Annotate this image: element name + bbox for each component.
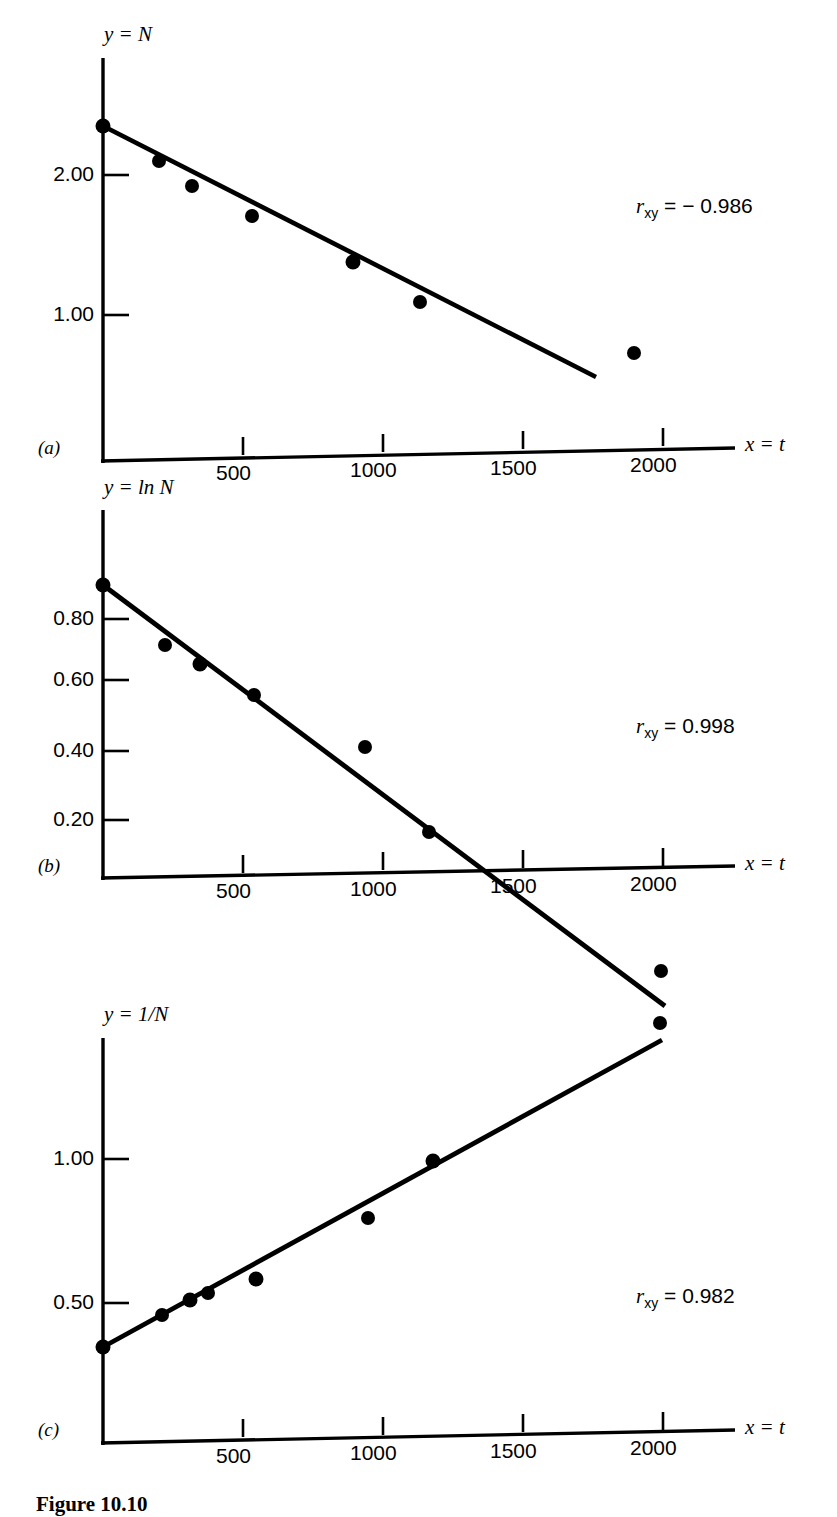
panel-a-xtick-label-1500: 1500 — [490, 456, 537, 480]
panel-a-data-point — [413, 295, 427, 309]
panel-b-ytick-label-060: 0.60 — [22, 667, 94, 691]
panel-c-data-point — [249, 1272, 264, 1287]
panel-b-correlation-value: = 0.998 — [664, 714, 735, 737]
panel-b-ytick-label-040: 0.40 — [22, 738, 94, 762]
panel-c-xtick-label-500: 500 — [216, 1444, 251, 1468]
panel-c-correlation: rxy = 0.982 — [636, 1284, 735, 1311]
panel-c-data-point — [201, 1286, 215, 1300]
panel-c-xtick-label-1000: 1000 — [350, 1441, 397, 1465]
panel-c-correlation-subscript: xy — [644, 1295, 658, 1311]
panel-b-y-axis-label: y = ln N — [104, 475, 174, 500]
panel-a-data-point — [185, 179, 199, 193]
panel-c-label: (c) — [38, 1419, 59, 1441]
panel-a-correlation: rxy = − 0.986 — [636, 194, 753, 221]
panel-a-y-axis-label: y = N — [104, 22, 152, 47]
panel-c-xtick-label-2000: 2000 — [630, 1436, 677, 1460]
panel-a-ytick-label-200: 2.00 — [22, 162, 94, 186]
panel-a-data-point — [346, 255, 361, 270]
panel-b-data-point — [422, 825, 436, 839]
panel-c-y-axis-label: y = 1/N — [104, 1002, 168, 1027]
figure-caption: Figure 10.10 — [36, 1492, 148, 1517]
panel-b-data-point — [654, 964, 668, 978]
panel-c-data-point — [653, 1016, 667, 1030]
panel-a-graphics — [96, 58, 736, 463]
panel-a-xtick-label-2000: 2000 — [630, 453, 677, 477]
panel-b-xtick-label-2000: 2000 — [630, 872, 677, 896]
panel-a-xtick-label-500: 500 — [216, 461, 251, 485]
panel-b-correlation-subscript: xy — [644, 725, 658, 741]
panel-a-data-point — [96, 119, 111, 134]
panel-b-xtick-label-1500: 1500 — [490, 874, 537, 898]
panel-b-label: (b) — [38, 855, 60, 877]
panel-a-xtick-label-1000: 1000 — [350, 458, 397, 482]
panel-b-data-point — [358, 740, 372, 754]
panel-a-ytick-label-100: 1.00 — [22, 302, 94, 326]
panel-a-data-point — [627, 346, 641, 360]
panel-b-ytick-label-020: 0.20 — [22, 807, 94, 831]
panel-b-data-point — [193, 657, 208, 672]
panel-c-ytick-label-100: 1.00 — [22, 1146, 94, 1170]
panel-a-label: (a) — [38, 437, 60, 459]
panel-b-graphics — [96, 510, 736, 1006]
panel-a-data-point — [245, 209, 259, 223]
panel-a-data-point — [152, 154, 166, 168]
panel-c-correlation-symbol: r — [636, 1284, 644, 1308]
panel-b-data-point — [158, 638, 172, 652]
panel-c-data-point — [361, 1211, 375, 1225]
panel-a-x-axis-label: x = t — [745, 432, 785, 457]
panel-b-xtick-label-1000: 1000 — [350, 877, 397, 901]
panel-c-data-point — [96, 1340, 111, 1355]
panel-c-data-point — [183, 1293, 198, 1308]
panel-a-fit-line — [103, 126, 596, 377]
panel-a-correlation-subscript: xy — [644, 205, 658, 221]
panel-c-correlation-value: = 0.982 — [664, 1284, 735, 1307]
panel-a-correlation-symbol: r — [636, 194, 644, 218]
panel-b-correlation-symbol: r — [636, 714, 644, 738]
panel-b-correlation: rxy = 0.998 — [636, 714, 735, 741]
panel-a-correlation-value: = − 0.986 — [664, 194, 753, 217]
panel-c-x-axis-label: x = t — [745, 1415, 785, 1440]
panel-c-data-point — [426, 1154, 441, 1169]
panel-b-fit-line — [103, 585, 665, 1006]
panel-b-x-axis-label: x = t — [745, 851, 785, 876]
panel-c-data-point — [155, 1308, 169, 1322]
panel-c-graphics — [96, 1016, 736, 1445]
panel-b-data-point — [247, 688, 261, 702]
panel-b-xtick-label-500: 500 — [216, 879, 251, 903]
panel-c-xtick-label-1500: 1500 — [490, 1439, 537, 1463]
panel-b-data-point — [96, 578, 111, 593]
panel-c-ytick-label-050: 0.50 — [22, 1290, 94, 1314]
panel-b-ytick-label-080: 0.80 — [22, 606, 94, 630]
